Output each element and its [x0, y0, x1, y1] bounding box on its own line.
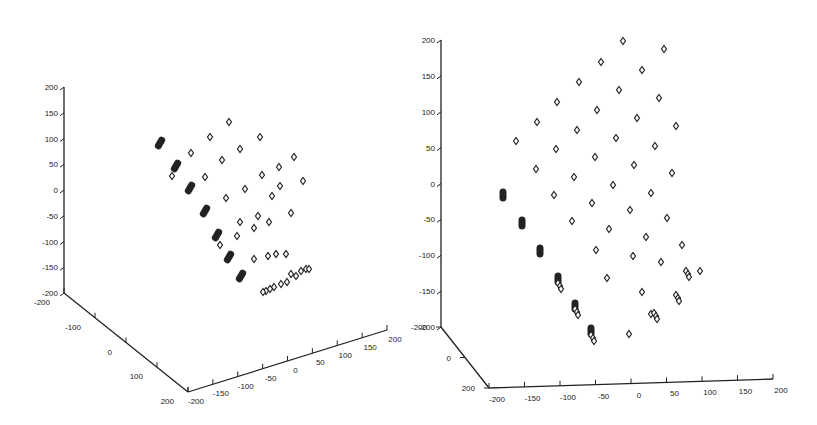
open-diamond-marker: [285, 279, 290, 286]
open-diamond-marker: [260, 172, 265, 179]
tick-label: 200: [161, 397, 175, 406]
tick-label: -100: [419, 251, 436, 260]
tick-label: -200: [411, 323, 428, 332]
open-diamond-marker: [611, 182, 616, 189]
tick-label: 0: [447, 354, 452, 363]
filled-diamond-marker: [519, 217, 525, 229]
open-diamond-marker: [607, 226, 612, 233]
tick-label: 200: [45, 83, 59, 92]
tick-label: -50: [46, 212, 58, 221]
open-diamond-marker: [243, 186, 248, 193]
open-diamond-marker: [514, 138, 519, 145]
right-z-ticks: 200150100500-50-100-150-200: [419, 36, 441, 332]
open-diamond-marker: [662, 46, 667, 53]
tick-label: 100: [339, 351, 353, 360]
tick-label: -50: [265, 374, 277, 383]
left-plot: 200150100500-50-100-150-200 -200-1000100…: [34, 83, 402, 406]
figure: 200150100500-50-100-150-200 -200-1000100…: [0, 0, 817, 425]
filled-diamond-marker: [500, 189, 506, 201]
filled-diamond-marker: [184, 181, 195, 194]
filled-diamond-marker: [154, 136, 165, 149]
tick-label: 200: [422, 36, 436, 45]
tick-label: -200: [489, 395, 506, 404]
tick-mark: [60, 293, 64, 296]
tick-label: 200: [774, 386, 788, 395]
tick-label: -100: [65, 323, 82, 332]
tick-label: 150: [422, 72, 436, 81]
open-diamond-marker: [256, 213, 261, 220]
tick-label: -200: [42, 289, 59, 298]
open-diamond-marker: [274, 251, 279, 258]
tick-label: 0: [54, 186, 59, 195]
open-diamond-marker: [301, 178, 306, 185]
open-diamond-marker: [577, 79, 582, 86]
open-diamond-marker: [653, 143, 658, 150]
open-diamond-marker: [238, 146, 243, 153]
tick-label: 0: [293, 366, 298, 375]
open-diamond-marker: [289, 271, 294, 278]
open-diamond-marker: [252, 256, 257, 263]
tick-label: 150: [45, 109, 59, 118]
open-diamond-marker: [572, 174, 577, 181]
tick-label: 0: [108, 348, 113, 357]
open-diamond-marker: [252, 225, 257, 232]
open-diamond-marker: [278, 183, 283, 190]
open-diamond-marker: [218, 242, 223, 249]
left-y-ticks: -200-1000100200: [34, 288, 188, 406]
tick-label: -50: [598, 392, 610, 401]
open-diamond-marker: [534, 166, 539, 173]
open-diamond-marker: [640, 289, 645, 296]
tick-label: 100: [45, 135, 59, 144]
tick-label: 200: [462, 384, 476, 393]
open-diamond-marker: [599, 59, 604, 66]
filled-diamond-marker: [170, 159, 181, 172]
tick-label: -100: [42, 238, 59, 247]
tick-label: -200: [188, 397, 205, 406]
open-diamond-marker: [270, 193, 275, 200]
filled-diamond-marker: [537, 245, 543, 257]
left-z-ticks: 200150100500-50-100-150-200: [42, 83, 64, 298]
open-diamond-marker: [284, 251, 289, 258]
open-diamond-marker: [617, 87, 622, 94]
tick-label: -50: [423, 215, 435, 224]
open-diamond-marker: [680, 242, 685, 249]
open-diamond-marker: [665, 215, 670, 222]
open-diamond-marker: [299, 268, 304, 275]
open-diamond-marker: [258, 134, 263, 141]
tick-label: -150: [213, 389, 230, 398]
tick-label: -150: [419, 287, 436, 296]
open-diamond-marker: [674, 123, 679, 130]
filled-diamond-marker: [199, 204, 210, 217]
open-diamond-marker: [614, 135, 619, 142]
open-diamond-marker: [649, 190, 654, 197]
left-data-points: [154, 119, 311, 296]
open-diamond-marker: [238, 219, 243, 226]
tick-label: 50: [426, 144, 435, 153]
open-diamond-marker: [698, 268, 703, 275]
open-diamond-marker: [575, 127, 580, 134]
tick-label: -100: [560, 393, 577, 402]
open-diamond-marker: [235, 233, 240, 240]
tick-label: 50: [670, 389, 679, 398]
open-diamond-marker: [189, 150, 194, 157]
open-diamond-marker: [640, 67, 645, 74]
open-diamond-marker: [644, 234, 649, 241]
tick-label: -150: [42, 263, 59, 272]
open-diamond-marker: [595, 107, 600, 114]
tick-label: 100: [130, 372, 144, 381]
open-diamond-marker: [554, 146, 559, 153]
tick-label: 50: [316, 358, 325, 367]
open-diamond-marker: [266, 253, 271, 260]
tick-label: -200: [34, 298, 51, 307]
open-diamond-marker: [267, 219, 272, 226]
open-diamond-marker: [594, 247, 599, 254]
open-diamond-marker: [659, 259, 664, 266]
right-x-ticks: -200-150-100-50050100150200: [489, 374, 788, 404]
open-diamond-marker: [552, 192, 557, 199]
open-diamond-marker: [631, 253, 636, 260]
tick-label: 100: [422, 108, 436, 117]
tick-label: 0: [431, 180, 436, 189]
open-diamond-marker: [570, 218, 575, 225]
open-diamond-marker: [555, 99, 560, 106]
tick-label: 100: [703, 388, 717, 397]
